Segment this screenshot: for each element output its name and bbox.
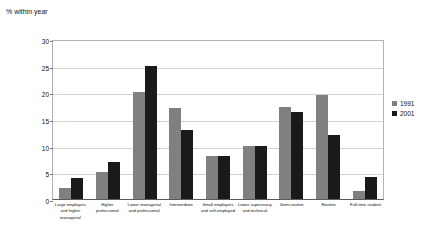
legend-swatch-icon xyxy=(392,101,397,106)
x-axis-label: Small employers and self-employed xyxy=(200,202,237,221)
legend: 19912001 xyxy=(392,100,414,117)
bar-2001 xyxy=(291,112,303,199)
legend-label: 1991 xyxy=(400,100,414,107)
bar-groups xyxy=(53,41,383,199)
plot-area: 051015202530 xyxy=(52,40,384,200)
bar-group xyxy=(236,41,273,199)
bar-2001 xyxy=(108,162,120,199)
y-axis-tick-label: 15 xyxy=(42,118,49,125)
y-axis-tick-label: 25 xyxy=(42,64,49,71)
y-axis-tick-label: 10 xyxy=(42,144,49,151)
bar-2001 xyxy=(328,135,340,199)
x-axis-label: Large employers and higher managerial xyxy=(52,202,89,221)
legend-swatch-icon xyxy=(392,111,397,116)
x-axis-label: Intermediate xyxy=(163,202,200,221)
bar-group xyxy=(310,41,347,199)
bar-2001 xyxy=(365,177,377,199)
bar-1991 xyxy=(59,188,71,199)
bar-chart: % within year 051015202530 Large employe… xyxy=(0,0,448,239)
bar-2001 xyxy=(255,146,267,199)
bar-2001 xyxy=(218,156,230,199)
y-axis-tick-label: 20 xyxy=(42,91,49,98)
y-axis-tick-label: 0 xyxy=(45,198,49,205)
y-axis-title: % within year xyxy=(6,8,48,15)
bar-1991 xyxy=(316,95,328,199)
x-axis-label: Higher professional xyxy=(89,202,126,221)
bar-1991 xyxy=(243,146,255,199)
bar-2001 xyxy=(181,130,193,199)
bar-1991 xyxy=(169,108,181,199)
y-axis-tick-label: 30 xyxy=(42,38,49,45)
bar-1991 xyxy=(353,191,365,199)
bar-group xyxy=(53,41,90,199)
bar-2001 xyxy=(71,178,83,199)
legend-label: 2001 xyxy=(400,110,414,117)
bar-2001 xyxy=(145,66,157,199)
bar-group xyxy=(90,41,127,199)
bar-1991 xyxy=(279,107,291,199)
bar-1991 xyxy=(133,92,145,199)
x-axis-label: Semi-routine xyxy=(273,202,310,221)
x-axis-label: Full-time student xyxy=(347,202,384,221)
x-axis-label: Lower managerial and professional xyxy=(126,202,163,221)
x-axis-label: Routine xyxy=(310,202,347,221)
bar-group xyxy=(273,41,310,199)
bar-group xyxy=(163,41,200,199)
x-axis-label: Lower supervisory and technical xyxy=(236,202,273,221)
x-axis-labels: Large employers and higher managerialHig… xyxy=(52,202,384,221)
legend-item[interactable]: 2001 xyxy=(392,110,414,117)
bar-group xyxy=(346,41,383,199)
legend-item[interactable]: 1991 xyxy=(392,100,414,107)
y-axis-tick-label: 5 xyxy=(45,171,49,178)
bar-group xyxy=(126,41,163,199)
bar-group xyxy=(200,41,237,199)
bar-1991 xyxy=(206,156,218,199)
bar-1991 xyxy=(96,172,108,199)
